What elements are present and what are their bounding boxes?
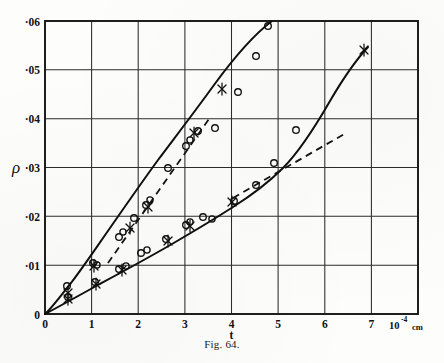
data-point-circle	[183, 143, 190, 150]
upper-curve-tangent-line	[108, 116, 211, 263]
y-tick-label-0.01: ·01	[25, 260, 41, 272]
x-tick-label-7: 7	[369, 318, 375, 330]
plot-area: ·06 ·05 ·04 ·03 ·02 ·01 0 0 1 2 3 4 5 6 …	[0, 0, 444, 363]
x-tick-labels: 0 1 2 3 4 5 6 7	[42, 318, 374, 330]
y-tick-label-0.06: ·06	[25, 16, 41, 28]
data-point-circle	[293, 127, 300, 134]
y-tick-labels: ·06 ·05 ·04 ·03 ·02 ·01 0	[25, 16, 41, 321]
x-tick-label-6: 6	[322, 318, 328, 330]
data-point-star	[218, 83, 226, 95]
grid-lines	[45, 21, 418, 314]
figure-root: ·06 ·05 ·04 ·03 ·02 ·01 0 0 1 2 3 4 5 6 …	[0, 0, 444, 363]
x-tick-label-3: 3	[182, 318, 188, 330]
x-tick-label-0: 0	[42, 318, 48, 330]
data-point-circle	[212, 125, 219, 132]
data-point-circle	[253, 53, 260, 60]
x-axis-unit: 10 -4 cm	[389, 315, 423, 332]
y-tick-label-0.02: ·02	[25, 211, 41, 223]
data-point-circle	[235, 89, 242, 96]
upper-curve-markers	[64, 23, 272, 299]
x-tick-label-2: 2	[135, 318, 141, 330]
lower-curve-tangent-line	[233, 133, 346, 198]
x-tick-label-5: 5	[275, 318, 281, 330]
data-point-circle	[187, 137, 193, 143]
x-axis-unit-name: cm	[412, 322, 423, 332]
x-axis-unit-mantissa: 10	[389, 320, 400, 331]
data-point-circle	[131, 215, 138, 222]
data-point-circle	[144, 247, 150, 253]
y-tick-label-0: 0	[34, 309, 40, 321]
x-tick-label-1: 1	[89, 318, 95, 330]
data-point-circle	[271, 160, 278, 167]
data-point-circle	[200, 214, 207, 221]
y-tick-label-0.05: ·05	[25, 64, 41, 76]
y-tick-label-0.03: ·03	[25, 162, 41, 174]
x-axis-unit-exponent: -4	[401, 315, 407, 324]
y-tick-label-0.04: ·04	[25, 113, 41, 125]
data-point-circle	[120, 229, 126, 235]
figure-caption: Fig. 64.	[0, 338, 444, 350]
y-axis-title: ρ	[11, 158, 20, 177]
lower-shallow-curve	[45, 47, 368, 314]
